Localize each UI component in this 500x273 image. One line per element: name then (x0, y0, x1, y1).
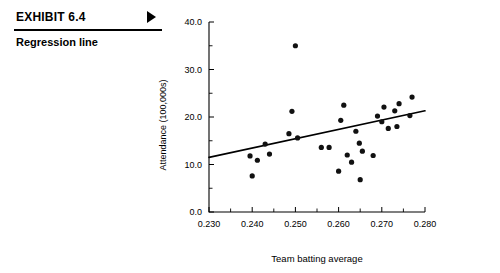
data-point (286, 131, 291, 136)
exhibit-figure: EXHIBIT 6.4 Regression line Attendance (… (0, 0, 500, 273)
data-point (267, 151, 272, 156)
exhibit-title-row: EXHIBIT 6.4 (14, 8, 162, 26)
data-point (371, 153, 376, 158)
x-tick-label: 0.270 (371, 219, 394, 229)
data-point (353, 129, 358, 134)
data-point (381, 104, 386, 109)
data-points (247, 43, 414, 182)
data-point (392, 108, 397, 113)
regression-line (209, 111, 425, 158)
data-point (326, 145, 331, 150)
y-tick-label: 20.0 (184, 112, 202, 122)
x-tick-labels: 0.2300.2400.2500.2600.2700.280 (198, 219, 437, 229)
x-tick-label: 0.250 (284, 219, 307, 229)
y-tick-label: 0.0 (189, 207, 202, 217)
y-axis-title-group: Attendance (100,000s) (158, 79, 168, 170)
data-point (250, 173, 255, 178)
chart-canvas: Attendance (100,000s) 0.010.020.030.040.… (150, 0, 500, 273)
data-point (379, 119, 384, 124)
y-tick-labels: 0.010.020.030.040.0 (184, 17, 202, 217)
data-point (255, 158, 260, 163)
data-point (396, 101, 401, 106)
data-point (407, 113, 412, 118)
exhibit-divider (14, 29, 162, 31)
y-tick-label: 30.0 (184, 65, 202, 75)
data-point (263, 141, 268, 146)
data-point (338, 118, 343, 123)
data-point (360, 149, 365, 154)
x-tick-label: 0.280 (414, 219, 437, 229)
x-tick-label: 0.260 (327, 219, 350, 229)
data-point (295, 135, 300, 140)
data-point (409, 94, 414, 99)
data-point (386, 126, 391, 131)
data-point (336, 169, 341, 174)
y-tick-label: 40.0 (184, 17, 202, 27)
y-tick-label: 10.0 (184, 160, 202, 170)
exhibit-header: EXHIBIT 6.4 Regression line (14, 8, 162, 48)
x-axis-label: Team batting average (271, 253, 362, 264)
y-axis-label: Attendance (100,000s) (158, 79, 168, 170)
scatter-chart: Attendance (100,000s) 0.010.020.030.040.… (150, 0, 500, 273)
data-point (358, 177, 363, 182)
data-point (341, 103, 346, 108)
data-point (375, 113, 380, 118)
data-point (357, 141, 362, 146)
data-point (345, 152, 350, 157)
data-point (293, 43, 298, 48)
data-point (394, 124, 399, 129)
x-tick-label: 0.240 (241, 219, 264, 229)
data-point (247, 153, 252, 158)
data-point (349, 160, 354, 165)
data-point (289, 109, 294, 114)
x-tick-label: 0.230 (198, 219, 221, 229)
exhibit-subtitle: Regression line (14, 36, 162, 48)
exhibit-label: EXHIBIT 6.4 (16, 10, 86, 24)
data-point (319, 145, 324, 150)
